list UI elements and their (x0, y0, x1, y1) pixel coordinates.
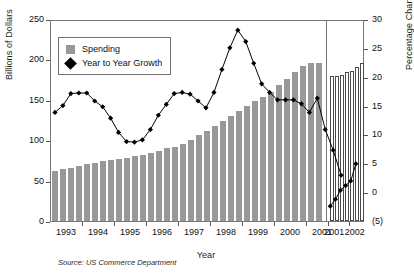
data-point-diamond (68, 91, 73, 96)
y-left-tick-label: 0 (10, 216, 44, 226)
y-left-tick-label: 100 (10, 135, 44, 145)
y-axis-right-title: Percentage Change (%) (404, 0, 414, 70)
y-right-tick-label: 15 (372, 101, 406, 111)
y-right-tick-label: 20 (372, 72, 406, 82)
y-left-tick-label: 250 (10, 14, 44, 24)
y-right-tick-label: 0 (372, 187, 406, 197)
x-tickmark (328, 222, 329, 226)
data-point-diamond (331, 148, 336, 153)
x-tick-label: 2002 (335, 227, 375, 237)
data-point-diamond (227, 45, 232, 50)
y-right-tick-label: 10 (372, 129, 406, 139)
legend-label-spending: Spending (82, 44, 120, 54)
y-right-tick-label: (5) (372, 216, 406, 226)
y-right-tickmark (364, 107, 368, 108)
y-right-tickmark (364, 49, 368, 50)
y-left-tick-label: 200 (10, 54, 44, 64)
x-tickmark (349, 222, 350, 226)
y-left-tickmark (46, 222, 50, 223)
x-tickmark (82, 222, 83, 226)
square-icon (65, 45, 76, 54)
x-tickmark (274, 222, 275, 226)
legend-label-growth: Year to Year Growth (82, 58, 162, 68)
y-right-tick-label: 5 (372, 158, 406, 168)
data-point-diamond (315, 96, 320, 101)
y-right-tickmark (364, 193, 368, 194)
y-left-tick-label: 150 (10, 95, 44, 105)
data-point-diamond (323, 127, 328, 132)
y-left-tick-label: 50 (10, 176, 44, 186)
data-point-diamond (291, 97, 296, 102)
x-tickmark (306, 222, 307, 226)
source-note: Source: US Commerce Department (58, 258, 176, 267)
y-right-tickmark (364, 135, 368, 136)
x-tickmark (146, 222, 147, 226)
data-point-diamond (219, 67, 224, 72)
data-point-diamond (283, 97, 288, 102)
data-point-diamond (76, 90, 81, 95)
legend-item-spending: Spending (65, 42, 162, 56)
y-right-tick-label: 30 (372, 14, 406, 24)
x-tickmark (114, 222, 115, 226)
data-point-diamond (339, 173, 344, 178)
data-point-diamond (132, 140, 137, 145)
y-right-tickmark (364, 164, 368, 165)
y-right-tickmark (364, 78, 368, 79)
data-point-diamond (180, 90, 185, 95)
data-point-diamond (353, 161, 358, 166)
data-point-diamond (211, 90, 216, 95)
diamond-icon (65, 59, 76, 68)
y-right-tick-label: 25 (372, 43, 406, 53)
data-point-diamond (251, 61, 256, 66)
y-right-tickmark (364, 20, 368, 21)
x-tickmark (210, 222, 211, 226)
chart-legend: Spending Year to Year Growth (58, 37, 171, 75)
legend-item-growth: Year to Year Growth (65, 56, 162, 70)
x-tickmark (242, 222, 243, 226)
x-tickmark (178, 222, 179, 226)
